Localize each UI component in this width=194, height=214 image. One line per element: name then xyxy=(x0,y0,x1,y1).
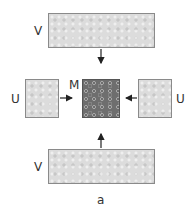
arrows xyxy=(0,0,194,214)
